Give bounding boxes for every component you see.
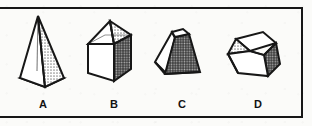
option-a-label: A: [28, 98, 58, 110]
option-b-shape[interactable]: [84, 17, 140, 93]
option-d-label: D: [243, 98, 273, 110]
option-c-label: C: [167, 98, 197, 110]
option-a-shape[interactable]: [14, 12, 72, 94]
option-c-shape[interactable]: [152, 24, 208, 90]
tall-square-pyramid-icon: [14, 12, 72, 94]
geometry-figure-panel: A: [0, 0, 312, 126]
open-top-box-icon: [222, 24, 290, 90]
option-d-shape[interactable]: [222, 24, 290, 90]
truncated-pyramid-icon: [152, 24, 208, 90]
cube-with-pyramid-roof-icon: [84, 17, 140, 93]
option-b-label: B: [99, 98, 129, 110]
